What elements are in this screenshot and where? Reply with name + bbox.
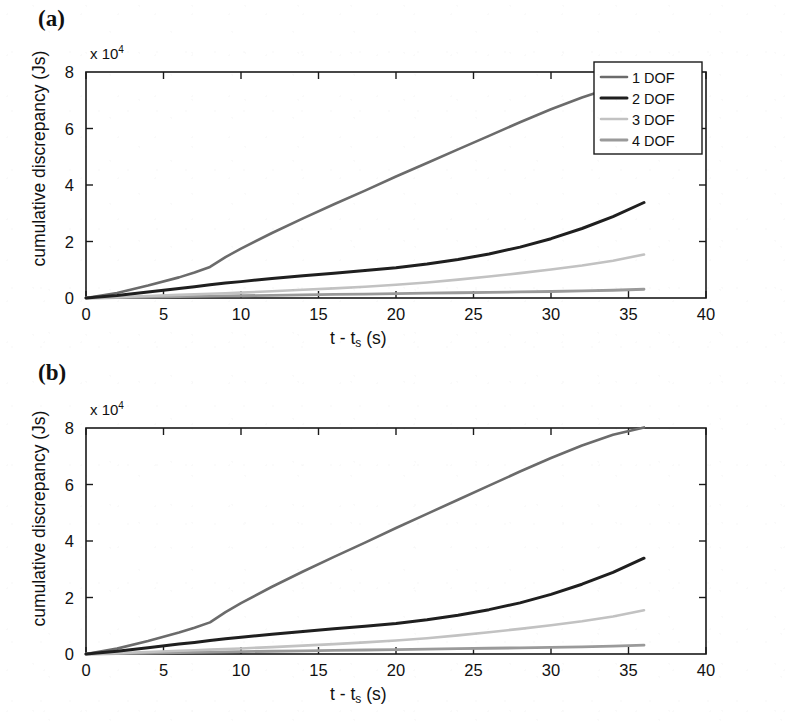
y-tick-label: 6 [65, 120, 74, 138]
x-tick-label: 40 [697, 305, 715, 323]
x-tick-label: 10 [232, 305, 250, 323]
y-tick-label: 2 [65, 233, 74, 251]
y-tick-label: 6 [65, 476, 74, 494]
figure-container: (a) cumulative discrepancy (Js) x 104 t … [0, 0, 789, 723]
x-tick-label: 15 [309, 661, 327, 679]
y-tick-label: 0 [65, 645, 74, 663]
y-tick-label: 8 [65, 419, 74, 437]
panel-b-plot: 051015202530354002468 [0, 358, 789, 719]
x-tick-label: 40 [697, 661, 715, 679]
x-tick-label: 15 [309, 305, 327, 323]
x-tick-label: 20 [387, 661, 405, 679]
x-tick-label: 0 [81, 305, 90, 323]
y-tick-label: 4 [65, 176, 74, 194]
x-tick-label: 25 [464, 305, 482, 323]
x-tick-label: 20 [387, 305, 405, 323]
x-tick-label: 10 [232, 661, 250, 679]
panel-a: (a) cumulative discrepancy (Js) x 104 t … [0, 0, 789, 361]
x-tick-label: 30 [542, 661, 560, 679]
series-line-2-dof [86, 203, 644, 298]
y-tick-label: 2 [65, 589, 74, 607]
x-tick-label: 5 [159, 305, 168, 323]
x-tick-label: 30 [542, 305, 560, 323]
legend-label-1-dof: 1 DOF [632, 70, 675, 86]
series-line-1-dof [86, 80, 644, 298]
legend-label-2-dof: 2 DOF [632, 91, 675, 107]
x-tick-label: 0 [81, 661, 90, 679]
panel-b: (b) cumulative discrepancy (Js) x 104 t … [0, 358, 789, 719]
series-line-1-dof [86, 427, 644, 654]
x-tick-label: 25 [464, 661, 482, 679]
x-tick-label: 35 [619, 305, 637, 323]
panel-a-plot: 0510152025303540024681 DOF2 DOF3 DOF4 DO… [0, 0, 789, 361]
x-tick-label: 35 [619, 661, 637, 679]
x-tick-label: 5 [159, 661, 168, 679]
y-tick-label: 4 [65, 532, 74, 550]
y-tick-label: 8 [65, 63, 74, 81]
legend-label-4-dof: 4 DOF [632, 133, 675, 149]
y-tick-label: 0 [65, 289, 74, 307]
legend-label-3-dof: 3 DOF [632, 112, 675, 128]
axis-frame [86, 428, 706, 654]
series-line-2-dof [86, 558, 644, 654]
